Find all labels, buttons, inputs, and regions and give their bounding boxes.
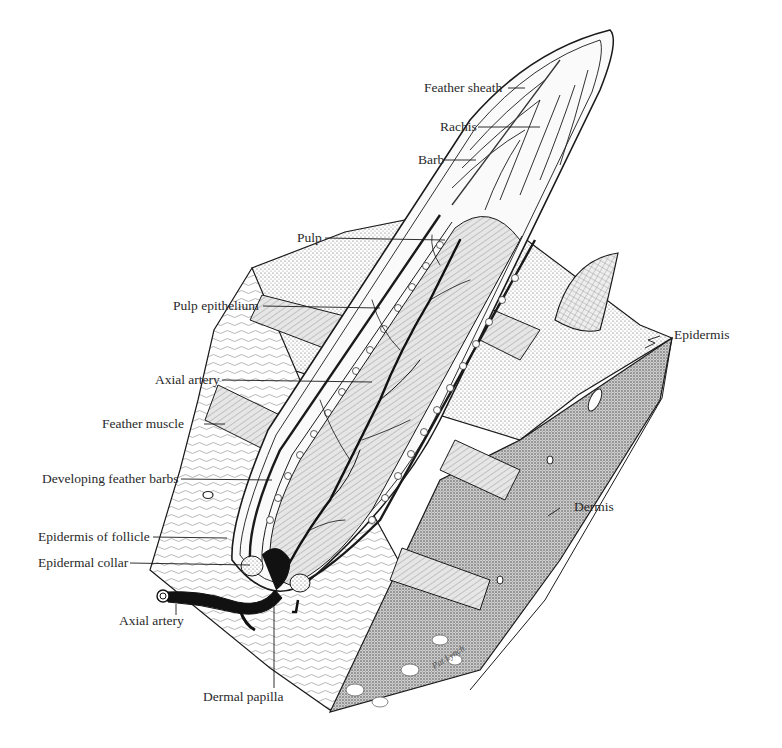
label-axial-artery-upper: Axial artery: [155, 373, 220, 387]
illustration: [0, 0, 782, 748]
label-pulp-epithelium: Pulp epithelium: [173, 299, 259, 313]
label-axial-artery-lower: Axial artery: [119, 614, 184, 628]
label-barb: Barb: [418, 153, 444, 167]
label-developing-feather-barbs: Developing feather barbs: [42, 472, 178, 486]
label-feather-sheath: Feather sheath: [424, 81, 502, 95]
label-epidermis-of-follicle: Epidermis of follicle: [38, 530, 150, 544]
label-rachis: Rachis: [440, 120, 477, 134]
label-dermis: Dermis: [574, 500, 614, 514]
label-dermal-papilla: Dermal papilla: [203, 690, 284, 704]
label-epidermis: Epidermis: [674, 328, 730, 342]
label-pulp: Pulp: [297, 231, 322, 245]
feather-follicle-diagram: Feather sheath Rachis Barb Pulp Pulp epi…: [0, 0, 782, 748]
label-feather-muscle: Feather muscle: [102, 417, 184, 431]
label-epidermal-collar: Epidermal collar: [38, 556, 128, 570]
